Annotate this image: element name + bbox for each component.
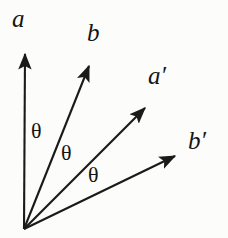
vector-label-a-prime: a′ <box>148 63 166 88</box>
vector-arrow-b-prime <box>24 156 175 229</box>
vector-label-b-prime: b′ <box>188 128 206 153</box>
prime-mark-a: ′ <box>161 62 166 89</box>
angle-label-theta-a-b: θ <box>31 120 42 142</box>
prime-mark-b: ′ <box>201 127 206 154</box>
vector-arrow-a-prime <box>24 108 145 229</box>
angle-label-theta-aprime-bprime: θ <box>88 164 99 186</box>
vector-arrow-a <box>24 54 25 229</box>
vector-label-b-prime-base: b <box>188 127 201 154</box>
vector-label-a-prime-base: a <box>148 62 161 89</box>
vector-rotation-figure: a b a′ b′ θ θ θ <box>0 0 228 238</box>
vector-label-b: b <box>87 20 100 45</box>
vector-label-a: a <box>12 6 25 31</box>
vector-arrow-b <box>24 66 89 229</box>
angle-label-theta-b-aprime: θ <box>61 142 72 164</box>
